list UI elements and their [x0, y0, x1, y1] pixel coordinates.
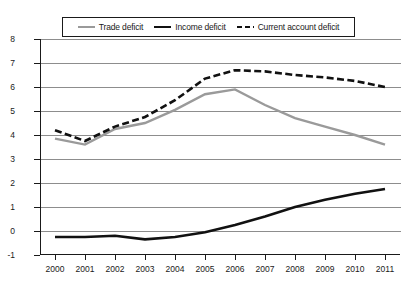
- gridline-4: [41, 135, 401, 136]
- legend-item-trade-deficit: Trade deficit: [78, 22, 144, 32]
- y-tick-label--1: -1: [0, 250, 15, 260]
- gridline-0: [41, 231, 401, 232]
- legend-label-trade-deficit: Trade deficit: [99, 22, 144, 32]
- gridline-6: [41, 87, 401, 88]
- y-tick-mark-4: [34, 135, 40, 136]
- y-tick-label-8: 8: [0, 34, 15, 44]
- y-tick-mark--1: [34, 255, 40, 256]
- plot-area: [40, 39, 400, 255]
- trade-line-swatch: [78, 26, 95, 28]
- x-tick-mark-2001: [85, 255, 86, 260]
- gridline-5: [41, 111, 401, 112]
- line-chart: Trade deficit Income deficit Current acc…: [0, 0, 419, 287]
- x-tick-mark-2000: [55, 255, 56, 260]
- x-tick-mark-2002: [115, 255, 116, 260]
- y-tick-mark-1: [34, 207, 40, 208]
- y-tick-mark-3: [34, 159, 40, 160]
- gridline-2: [41, 183, 401, 184]
- y-tick-label-0: 0: [0, 226, 15, 236]
- y-tick-label-6: 6: [0, 82, 15, 92]
- y-tick-mark-8: [34, 39, 40, 40]
- x-tick-label-2011: 2011: [365, 264, 405, 274]
- x-tick-mark-2004: [175, 255, 176, 260]
- chart-legend: Trade deficit Income deficit Current acc…: [62, 17, 355, 37]
- x-tick-mark-2007: [265, 255, 266, 260]
- y-tick-label-5: 5: [0, 106, 15, 116]
- legend-label-income-deficit: Income deficit: [175, 22, 225, 32]
- y-tick-label-4: 4: [0, 130, 15, 140]
- y-tick-label-2: 2: [0, 178, 15, 188]
- y-tick-label-1: 1: [0, 202, 15, 212]
- x-tick-mark-2003: [145, 255, 146, 260]
- income-line-swatch: [154, 26, 171, 28]
- y-tick-mark-7: [34, 63, 40, 64]
- legend-item-current-account-deficit: Current account deficit: [237, 22, 340, 32]
- current-account-line-swatch: [237, 26, 254, 29]
- x-tick-mark-2010: [355, 255, 356, 260]
- y-tick-mark-0: [34, 231, 40, 232]
- x-tick-mark-2005: [205, 255, 206, 260]
- y-tick-mark-5: [34, 111, 40, 112]
- y-tick-mark-6: [34, 87, 40, 88]
- gridline-3: [41, 159, 401, 160]
- legend-item-income-deficit: Income deficit: [154, 22, 225, 32]
- gridline-1: [41, 207, 401, 208]
- x-tick-mark-2008: [295, 255, 296, 260]
- y-tick-label-7: 7: [0, 58, 15, 68]
- gridline-7: [41, 63, 401, 64]
- x-tick-mark-2006: [235, 255, 236, 260]
- x-tick-mark-2009: [325, 255, 326, 260]
- legend-label-current-account-deficit: Current account deficit: [258, 22, 340, 32]
- y-tick-mark-2: [34, 183, 40, 184]
- x-tick-mark-2011: [385, 255, 386, 260]
- gridline-8: [41, 39, 401, 40]
- y-tick-label-3: 3: [0, 154, 15, 164]
